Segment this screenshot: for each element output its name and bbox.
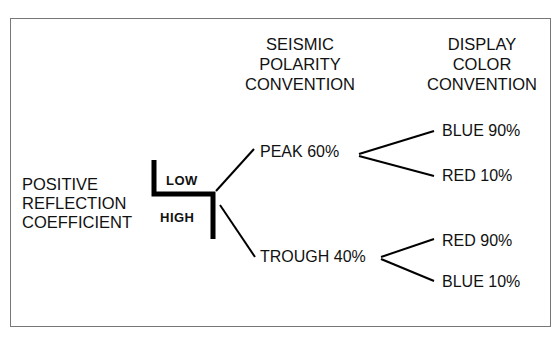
- impedance-step-icon: [154, 160, 213, 239]
- connector-lines: [0, 0, 559, 341]
